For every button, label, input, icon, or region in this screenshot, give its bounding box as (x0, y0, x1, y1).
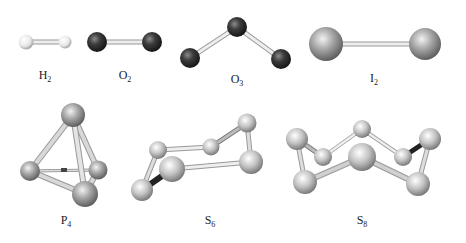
sulfur-atom (239, 150, 263, 174)
phosphorus-atom (72, 181, 98, 207)
oxygen-atom (180, 48, 200, 68)
label-o3: O3 (231, 72, 244, 88)
label-p4: P4 (61, 213, 72, 229)
molecule-s8 (286, 120, 441, 196)
sulfur-atom (159, 156, 185, 182)
molecule-p4 (20, 103, 108, 207)
oxygen-atom (227, 17, 247, 37)
molecule-s6 (131, 114, 263, 202)
molecule-diagram: H2 O2 O3 I2 P4 S6 S8 (0, 0, 466, 243)
sulfur-atom (419, 128, 441, 150)
label-o2: O2 (119, 68, 132, 84)
hydrogen-atom (19, 35, 34, 50)
sulfur-atom (238, 114, 257, 133)
label-i2: I2 (370, 71, 378, 87)
sulfur-atom (353, 120, 371, 138)
sulfur-atom (149, 141, 167, 159)
molecule-i2 (309, 27, 441, 61)
sulfur-atom (286, 128, 308, 150)
oxygen-atom (271, 49, 291, 69)
label-s6: S6 (205, 213, 216, 229)
sulfur-atom (348, 143, 376, 171)
molecule-h2 (19, 35, 72, 50)
hydrogen-atom (59, 36, 72, 49)
sulfur-atom (314, 148, 332, 166)
phosphorus-atom (20, 161, 40, 181)
iodine-atom (409, 28, 441, 60)
sulfur-atom (293, 170, 317, 194)
sulfur-atom (131, 179, 153, 201)
sulfur-atom (406, 172, 430, 196)
molecule-o2 (87, 32, 162, 52)
iodine-atom (309, 27, 343, 61)
oxygen-atom (142, 32, 162, 52)
sulfur-atom (394, 148, 412, 166)
phosphorus-atom (89, 161, 108, 180)
label-h2: H2 (39, 68, 52, 84)
label-s8: S8 (357, 213, 368, 229)
molecule-o3 (180, 17, 291, 69)
phosphorus-atom (61, 103, 85, 127)
sulfur-atom (203, 139, 220, 156)
oxygen-atom (87, 32, 107, 52)
